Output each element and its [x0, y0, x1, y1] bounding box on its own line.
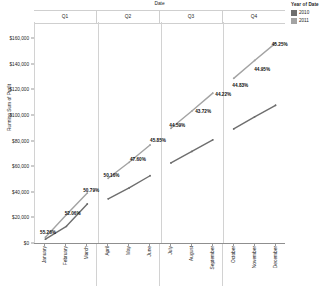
data-label: 45.85%: [150, 138, 166, 143]
data-point[interactable]: [107, 198, 109, 200]
data-point[interactable]: [212, 139, 214, 141]
legend-item-2010[interactable]: 2010: [291, 10, 335, 16]
x-axis-label: June: [146, 246, 151, 256]
data-label: 52.06%: [65, 211, 81, 216]
data-label: 44.59%: [169, 123, 185, 128]
data-point[interactable]: [212, 92, 214, 94]
data-point[interactable]: [149, 144, 151, 146]
legend: Year of Date 2010 2011: [291, 2, 335, 24]
data-point[interactable]: [149, 175, 151, 177]
data-point[interactable]: [128, 187, 130, 189]
data-label: 44.95%: [254, 67, 270, 72]
x-panel-Q1: JanuaryFebruaryMarch: [34, 244, 97, 286]
x-axis-label: December: [272, 246, 277, 268]
legend-label-2010: 2010: [299, 10, 309, 16]
legend-swatch-2010: [291, 10, 297, 16]
data-point[interactable]: [128, 161, 130, 163]
data-point[interactable]: [65, 225, 67, 227]
x-panel-Q4: OctoberNovemberDecember: [223, 244, 285, 286]
column-axis-title: Date: [34, 1, 285, 6]
x-label-cell: June: [138, 244, 159, 286]
data-point[interactable]: [170, 162, 172, 164]
data-point[interactable]: [254, 116, 256, 118]
y-tick-label: $20,000: [12, 215, 29, 220]
data-point[interactable]: [191, 110, 193, 112]
x-axis-label: November: [252, 246, 257, 268]
y-tick-label: $0: [24, 241, 29, 246]
data-point[interactable]: [275, 104, 277, 106]
y-tick-label: $140,000: [9, 61, 29, 66]
legend-title: Year of Date: [291, 2, 335, 8]
y-axis-ticks: $0$20,000$40,000$60,000$80,000$100,000$1…: [0, 0, 34, 286]
data-point[interactable]: [45, 238, 47, 240]
y-tick-label: $40,000: [12, 189, 29, 194]
x-axis-label: August: [189, 246, 194, 261]
data-label: 44.83%: [232, 83, 248, 88]
x-label-cell: July: [160, 244, 181, 286]
x-panel-Q2: AprilMayJune: [97, 244, 160, 286]
data-point[interactable]: [254, 60, 256, 62]
x-label-cell: February: [55, 244, 76, 286]
data-point[interactable]: [233, 128, 235, 130]
x-axis-label: May: [126, 246, 131, 255]
data-point[interactable]: [233, 77, 235, 79]
x-label-cell: March: [75, 244, 96, 286]
legend-label-2011: 2011: [299, 18, 309, 24]
data-label: 55.26%: [40, 230, 56, 235]
x-axis-label: September: [209, 246, 214, 269]
data-label: 50.16%: [104, 173, 120, 178]
data-point[interactable]: [45, 236, 47, 238]
x-panel-Q3: JulyAugustSeptember: [160, 244, 223, 286]
data-point[interactable]: [86, 203, 88, 205]
data-point[interactable]: [170, 127, 172, 129]
y-tick-label: $100,000: [9, 112, 29, 117]
y-tick-label: $80,000: [12, 138, 29, 143]
chart-container: Date Q1 Q2 Q3 Q4 Running Sum of Profit $…: [0, 0, 335, 286]
x-label-cell: September: [201, 244, 222, 286]
x-axis-label: October: [231, 246, 236, 263]
legend-swatch-2011: [291, 18, 297, 24]
y-tick-label: $120,000: [9, 87, 29, 92]
x-label-cell: August: [181, 244, 202, 286]
x-axis-label: April: [105, 246, 110, 256]
data-label: 43.72%: [195, 109, 211, 114]
x-label-cell: May: [118, 244, 139, 286]
data-label: 47.60%: [130, 157, 146, 162]
x-label-cell: December: [264, 244, 285, 286]
y-tick-label: $160,000: [9, 36, 29, 41]
x-axis-label: July: [168, 246, 173, 255]
x-label-cell: April: [97, 244, 118, 286]
x-axis-label: February: [63, 246, 68, 265]
x-axis-label: January: [42, 246, 47, 263]
y-tick-label: $60,000: [12, 164, 29, 169]
x-label-cell: October: [223, 244, 244, 286]
x-label-cell: November: [244, 244, 265, 286]
x-axis-label: March: [83, 246, 88, 259]
data-point[interactable]: [107, 177, 109, 179]
data-label: 45.25%: [272, 42, 288, 47]
legend-item-2011[interactable]: 2011: [291, 18, 335, 24]
x-axis-labels: JanuaryFebruaryMarchAprilMayJuneJulyAugu…: [34, 244, 285, 286]
data-point[interactable]: [191, 150, 193, 152]
plot-area: 55.26%52.06%50.79%50.16%47.60%45.85%44.5…: [34, 22, 285, 243]
data-label: 50.79%: [83, 188, 99, 193]
x-label-cell: January: [34, 244, 55, 286]
data-label: 44.22%: [215, 92, 231, 97]
